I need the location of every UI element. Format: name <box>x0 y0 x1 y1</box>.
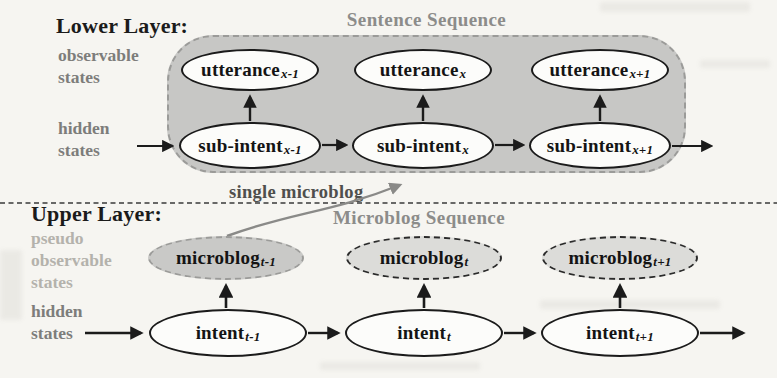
pseudo-observable-states-label: pseudo observable states <box>31 228 112 294</box>
microblog-sequence-title: Microblog Sequence <box>333 207 505 229</box>
node-label: microblog <box>380 247 464 269</box>
node-microblog-t-1: microblogt-1 <box>148 236 304 280</box>
node-label: sub-intent <box>377 135 461 157</box>
node-label: intent <box>397 322 446 344</box>
upper-layer-heading: Upper Layer: <box>31 201 162 227</box>
node-label: intent <box>586 322 635 344</box>
node-utterance-x: utterancex <box>354 49 492 91</box>
node-label: utterance <box>550 59 629 81</box>
node-microblog-t: microblogt <box>346 236 502 280</box>
node-label: sub-intent <box>547 135 631 157</box>
scan-artifact <box>320 362 480 370</box>
node-utterance-x-1: utterancex-1 <box>181 49 319 91</box>
node-intent-t1: intentt+1 <box>541 309 699 357</box>
node-label: microblog <box>176 247 260 269</box>
scan-artifact <box>540 300 720 309</box>
sentence-sequence-title: Sentence Sequence <box>167 9 686 31</box>
node-label: intent <box>196 322 245 344</box>
node-label: utterance <box>201 59 280 81</box>
node-intent-t-1: intentt-1 <box>149 309 307 357</box>
node-subscript: x-1 <box>284 142 302 158</box>
node-subscript: x+1 <box>629 66 650 82</box>
node-subscript: t+1 <box>636 329 654 345</box>
node-subscript: x+1 <box>632 142 653 158</box>
node-microblog-t1: microblogt+1 <box>542 236 698 280</box>
node-subscript: t <box>464 254 468 270</box>
node-subscript: x <box>460 66 467 82</box>
node-subscript: t <box>447 329 451 345</box>
node-sub-intent-x-1: sub-intentx-1 <box>179 122 321 169</box>
hidden-states-label-lower: hidden states <box>58 118 110 162</box>
single-microblog-label: single microblog <box>229 182 363 203</box>
node-label: microblog <box>569 247 653 269</box>
node-subscript: x-1 <box>281 66 299 82</box>
observable-states-label: observable states <box>58 45 139 89</box>
scan-artifact <box>700 60 770 68</box>
node-subscript: t-1 <box>245 329 260 345</box>
node-label: utterance <box>380 59 459 81</box>
node-intent-t: intentt <box>345 309 503 357</box>
node-subscript: t-1 <box>261 254 276 270</box>
node-sub-intent-x: sub-intentx <box>352 122 494 169</box>
figure-two-layer-hmm: { "figure": { "lower": { "heading": "Low… <box>0 0 777 378</box>
node-utterance-x1: utterancex+1 <box>531 49 669 91</box>
node-sub-intent-x1: sub-intentx+1 <box>529 122 671 169</box>
scan-artifact <box>0 250 22 320</box>
node-label: sub-intent <box>198 135 282 157</box>
hidden-states-label-upper: hidden states <box>31 301 83 345</box>
node-subscript: t+1 <box>653 254 671 270</box>
node-subscript: x <box>462 142 469 158</box>
